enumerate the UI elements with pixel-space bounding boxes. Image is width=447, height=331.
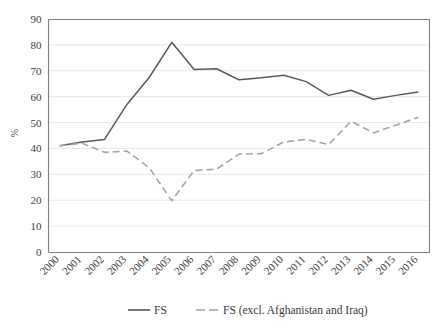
series-line-2 — [60, 117, 419, 200]
x-tick-label: 2015 — [373, 253, 397, 277]
y-tick-label: 10 — [31, 220, 43, 232]
x-tick-label: 2011 — [284, 253, 308, 277]
x-tick-label: 2004 — [127, 253, 151, 277]
y-axis-title: % — [9, 129, 20, 137]
x-axis-tick-labels: 2000200120022003200420052006200720082009… — [37, 253, 420, 277]
y-tick-label: 80 — [31, 39, 43, 51]
x-tick-label: 2001 — [59, 253, 83, 277]
x-tick-label: 2010 — [261, 253, 285, 277]
y-tick-label: 60 — [31, 91, 43, 103]
y-axis-tick-labels: 0102030405060708090 — [31, 13, 43, 258]
x-tick-label: 2016 — [396, 253, 420, 277]
y-tick-label: 70 — [31, 65, 43, 77]
plot-frame — [49, 19, 431, 253]
gridlines — [49, 45, 430, 226]
x-tick-label: 2014 — [351, 253, 375, 277]
x-tick-label: 2008 — [216, 253, 240, 277]
legend-label-2: FS (excl. Afghanistan and Iraq) — [223, 304, 368, 317]
x-tick-label: 2013 — [328, 253, 352, 277]
y-tick-label: 50 — [31, 117, 43, 129]
chart-container: 0102030405060708090 20002001200220032004… — [0, 0, 447, 331]
series-line-1 — [60, 42, 419, 146]
x-tick-label: 2007 — [194, 253, 218, 277]
x-tick-label: 2005 — [149, 253, 173, 277]
x-tick-label: 2012 — [306, 253, 330, 277]
y-axis-title-label: % — [9, 129, 20, 137]
x-tick-label: 2009 — [239, 253, 263, 277]
x-tick-label: 2006 — [172, 253, 196, 277]
chart-legend: FSFS (excl. Afghanistan and Iraq) — [128, 304, 368, 317]
series-lines — [60, 42, 419, 200]
x-tick-label: 2002 — [82, 253, 106, 277]
y-tick-label: 40 — [31, 142, 43, 154]
legend-label-1: FS — [154, 304, 167, 316]
y-tick-label: 0 — [36, 246, 42, 258]
y-tick-label: 30 — [31, 168, 43, 180]
x-tick-label: 2003 — [104, 253, 128, 277]
y-tick-label: 20 — [31, 194, 43, 206]
y-tick-label: 90 — [31, 13, 43, 25]
line-chart: 0102030405060708090 20002001200220032004… — [0, 0, 447, 331]
